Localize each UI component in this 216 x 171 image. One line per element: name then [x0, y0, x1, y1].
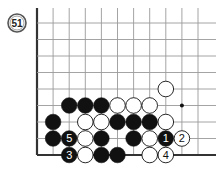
black-stone: [142, 114, 158, 130]
white-stone: [126, 98, 142, 114]
black-stone: [126, 131, 142, 147]
move-number-label: 2: [179, 132, 185, 144]
white-stone: [78, 114, 94, 130]
problem-number: 51: [11, 18, 23, 29]
white-stone: [78, 131, 94, 147]
white-stone: [142, 98, 158, 114]
move-number-label: 5: [66, 132, 72, 144]
black-stone: [61, 98, 77, 114]
black-stone: [94, 131, 110, 147]
black-stone: [45, 131, 61, 147]
white-stone: [158, 114, 174, 130]
white-stone: [142, 131, 158, 147]
move-number-label: 3: [66, 149, 72, 161]
white-stone: 4: [158, 147, 174, 163]
star-points: [180, 104, 184, 108]
black-stone: [94, 147, 110, 163]
black-stone: [110, 147, 126, 163]
go-board-diagram: 51234 51: [0, 0, 216, 171]
black-stone: 3: [61, 147, 77, 163]
white-stone: [142, 147, 158, 163]
white-stone: [158, 81, 174, 97]
white-stone: 2: [174, 131, 190, 147]
white-stone: [110, 98, 126, 114]
star-point-icon: [180, 104, 184, 108]
black-stone: 5: [61, 131, 77, 147]
white-stone: [94, 114, 110, 130]
move-number-label: 4: [163, 149, 169, 161]
black-stone: [94, 98, 110, 114]
move-number-label: 1: [163, 132, 169, 144]
black-stone: [45, 114, 61, 130]
black-stone: 1: [158, 131, 174, 147]
problem-number-badge: 51: [8, 14, 26, 32]
black-stone: [110, 114, 126, 130]
black-stone: [78, 98, 94, 114]
black-stone: [126, 114, 142, 130]
white-stone: [78, 147, 94, 163]
